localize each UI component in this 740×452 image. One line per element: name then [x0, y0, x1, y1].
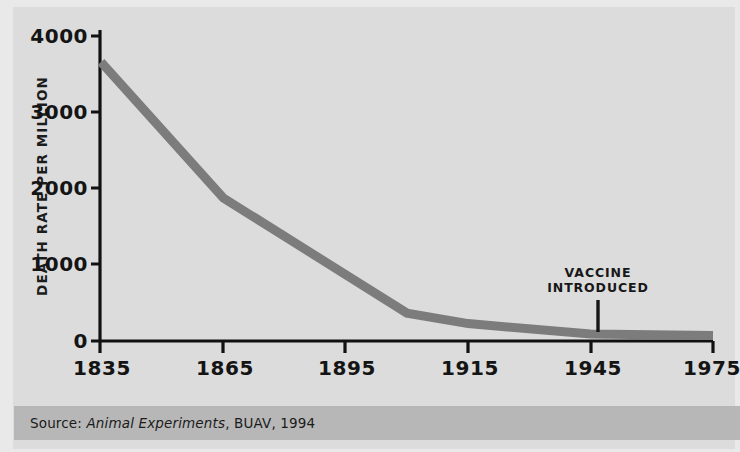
source-work-title: Animal Experiments [86, 415, 225, 431]
annotation-line-2: INTRODUCED [498, 280, 698, 295]
plot-svg [0, 0, 740, 400]
y-axis-tick-labels: 4000 3000 2000 1000 0 [20, 0, 88, 360]
source-band: Source: Animal Experiments, BUAV, 1994 [14, 406, 740, 440]
x-tick-label-1915: 1915 [415, 356, 525, 380]
y-tick-label-3000: 3000 [24, 100, 88, 124]
vaccine-introduced-annotation: VACCINE INTRODUCED [498, 265, 698, 295]
y-tick-label-4000: 4000 [24, 24, 88, 48]
chart-figure: DEATH RATE PER MILLION 4000 3000 2000 10… [0, 0, 740, 452]
source-prefix: Source: [30, 415, 82, 431]
y-tick-label-1000: 1000 [24, 252, 88, 276]
x-axis-ticks [100, 341, 713, 353]
source-caption: Source: Animal Experiments, BUAV, 1994 [14, 415, 315, 431]
annotation-line-1: VACCINE [498, 265, 698, 280]
x-tick-label-1835: 1835 [47, 356, 157, 380]
x-tick-label-1975: 1975 [657, 356, 740, 380]
y-tick-label-0: 0 [24, 329, 88, 353]
y-tick-label-2000: 2000 [24, 176, 88, 200]
x-tick-label-1895: 1895 [292, 356, 402, 380]
x-axis-tick-labels: 1835 1865 1895 1915 1945 1975 [0, 356, 740, 396]
plot-area [0, 0, 740, 400]
x-tick-label-1865: 1865 [170, 356, 280, 380]
source-suffix: , BUAV, 1994 [225, 415, 315, 431]
x-tick-label-1945: 1945 [538, 356, 648, 380]
